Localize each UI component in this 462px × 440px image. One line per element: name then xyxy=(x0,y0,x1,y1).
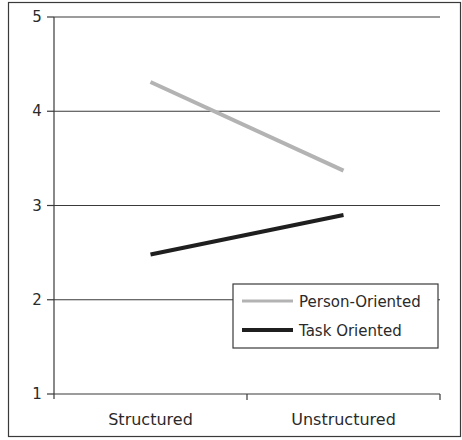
x-tick-label: Unstructured xyxy=(291,410,396,429)
line-chart: 12345 StructuredUnstructured Person-Orie… xyxy=(0,0,462,440)
legend-label: Task Oriented xyxy=(298,322,402,340)
series-lines xyxy=(151,82,344,254)
outer-frame xyxy=(9,3,461,437)
y-tick-label: 1 xyxy=(32,385,42,403)
y-tick-labels: 12345 xyxy=(32,8,42,403)
y-tick-label: 5 xyxy=(32,8,42,26)
x-tick-label: Structured xyxy=(108,410,193,429)
legend-label: Person-Oriented xyxy=(299,293,421,311)
y-tick-label: 4 xyxy=(32,102,42,120)
series-line-task-oriented xyxy=(151,215,344,255)
y-tick-label: 3 xyxy=(32,197,42,215)
legend: Person-OrientedTask Oriented xyxy=(233,284,438,348)
y-tick-label: 2 xyxy=(32,291,42,309)
x-tick-labels: StructuredUnstructured xyxy=(108,410,396,429)
gridlines xyxy=(54,17,440,300)
series-line-person-oriented xyxy=(151,82,344,171)
chart: 12345 StructuredUnstructured Person-Orie… xyxy=(0,0,462,440)
